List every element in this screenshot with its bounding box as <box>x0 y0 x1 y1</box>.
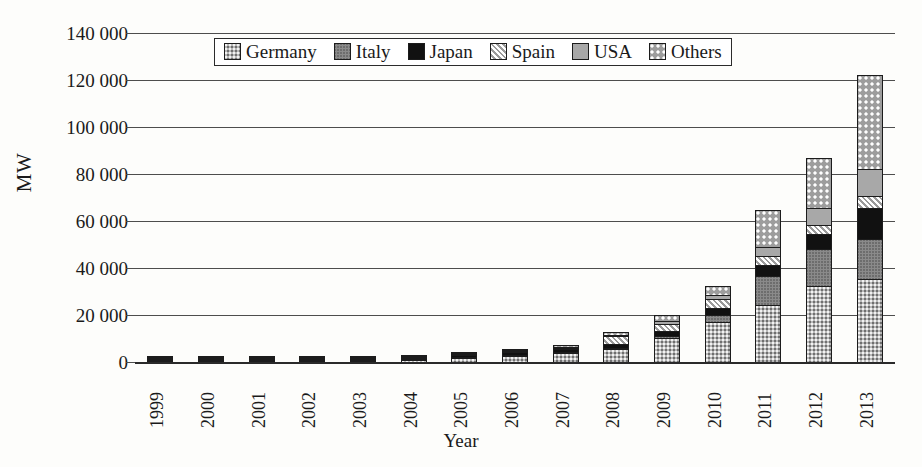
x-axis-tick-labels: 1999200020012002200320042005200620072008… <box>135 366 895 428</box>
bar-segment-usa <box>857 169 883 197</box>
legend-swatch-icon <box>572 43 589 60</box>
legend-item-spain[interactable]: Spain <box>490 42 555 61</box>
y-tick-label: 100 000 <box>8 118 128 137</box>
bar-segment-italy <box>857 239 883 280</box>
legend-swatch-icon <box>408 43 425 60</box>
bar-segment-italy <box>755 276 781 306</box>
y-tick-label: 0 <box>8 353 128 372</box>
legend-label: Spain <box>512 42 555 61</box>
x-tick-label: 2013 <box>857 392 878 428</box>
bar-segment-japan <box>806 234 832 250</box>
x-tick-label: 2012 <box>806 392 827 428</box>
bar-2005[interactable] <box>451 352 477 362</box>
legend-item-japan[interactable]: Japan <box>408 42 473 61</box>
x-tick-label: 2000 <box>198 392 219 428</box>
x-axis-line <box>135 362 895 364</box>
y-tick-label: 40 000 <box>8 259 128 278</box>
bar-2012[interactable] <box>806 158 832 362</box>
bar-group <box>135 33 895 362</box>
legend-label: Germany <box>246 42 317 61</box>
bar-2013[interactable] <box>857 75 883 362</box>
plot-area <box>135 33 895 362</box>
x-tick-label: 2008 <box>603 392 624 428</box>
bar-2008[interactable] <box>603 332 629 362</box>
y-axis-tick <box>126 33 135 34</box>
legend-item-usa[interactable]: USA <box>572 42 632 61</box>
bar-segment-germany <box>755 305 781 363</box>
legend-label: Japan <box>430 42 473 61</box>
y-tick-label: 120 000 <box>8 71 128 90</box>
y-axis-tick <box>126 127 135 128</box>
legend-label: Others <box>671 42 722 61</box>
y-axis-tick <box>126 174 135 175</box>
legend-item-italy[interactable]: Italy <box>334 42 391 61</box>
x-tick-label: 2010 <box>705 392 726 428</box>
bar-segment-others <box>806 158 832 208</box>
bar-segment-others <box>857 75 883 170</box>
bar-2009[interactable] <box>654 315 680 362</box>
x-tick-label: 2005 <box>451 392 472 428</box>
x-tick-label: 2007 <box>553 392 574 428</box>
legend-item-others[interactable]: Others <box>649 42 722 61</box>
y-axis-tick <box>126 315 135 316</box>
legend-label: USA <box>594 42 632 61</box>
legend-item-germany[interactable]: Germany <box>224 42 317 61</box>
legend: GermanyItalyJapanSpainUSAOthers <box>214 38 732 66</box>
bar-segment-germany <box>603 349 629 363</box>
y-axis-tick-labels: 020 00040 00060 00080 000100 000120 0001… <box>0 33 128 362</box>
x-tick-label: 2004 <box>401 392 422 428</box>
y-axis-tick <box>126 362 135 363</box>
x-tick-label: 2001 <box>249 392 270 428</box>
stacked-bar-chart: MW Year 020 00040 00060 00080 000100 000… <box>0 0 922 467</box>
y-axis-tick <box>126 268 135 269</box>
legend-swatch-icon <box>334 43 351 60</box>
y-tick-label: 80 000 <box>8 165 128 184</box>
bar-2007[interactable] <box>553 345 579 362</box>
bar-segment-germany <box>654 338 680 363</box>
bar-2006[interactable] <box>502 349 528 362</box>
bar-segment-germany <box>857 279 883 363</box>
y-axis-tick <box>126 221 135 222</box>
legend-swatch-icon <box>649 43 666 60</box>
x-tick-label: 2006 <box>502 392 523 428</box>
x-axis-title: Year <box>0 430 922 452</box>
y-tick-label: 60 000 <box>8 212 128 231</box>
legend-swatch-icon <box>224 43 241 60</box>
y-tick-label: 140 000 <box>8 24 128 43</box>
bar-2004[interactable] <box>401 355 427 362</box>
bar-segment-italy <box>806 249 832 287</box>
x-tick-label: 2009 <box>654 392 675 428</box>
bar-2010[interactable] <box>705 286 731 362</box>
legend-swatch-icon <box>490 43 507 60</box>
x-tick-label: 2002 <box>299 392 320 428</box>
x-tick-label: 1999 <box>147 392 168 428</box>
bar-segment-others <box>755 210 781 248</box>
x-tick-label: 2011 <box>755 393 776 428</box>
bar-segment-germany <box>806 286 832 363</box>
bar-segment-japan <box>857 208 883 240</box>
bar-segment-usa <box>806 208 832 226</box>
bar-2011[interactable] <box>755 210 781 362</box>
bar-segment-germany <box>705 322 731 363</box>
x-tick-label: 2003 <box>350 392 371 428</box>
y-axis-tick <box>126 80 135 81</box>
legend-label: Italy <box>356 42 391 61</box>
y-tick-label: 20 000 <box>8 306 128 325</box>
